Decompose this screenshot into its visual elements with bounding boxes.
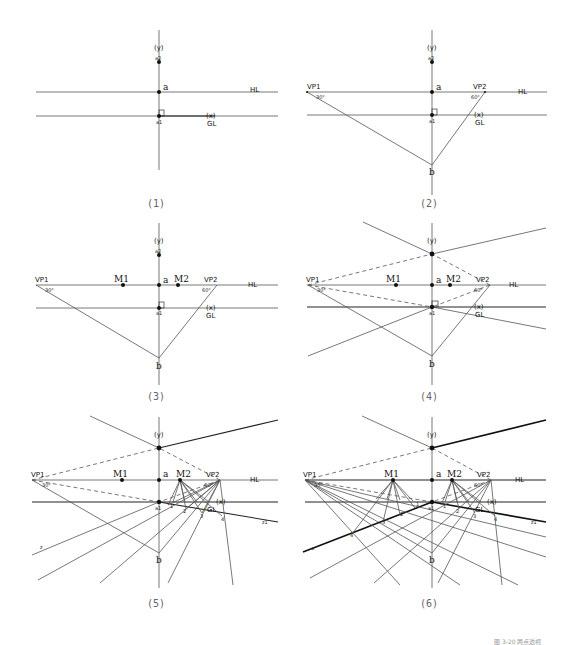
label-angle-30: 30° [314, 482, 323, 488]
label-hl: HL [250, 86, 259, 94]
tick-1: 1 [170, 503, 173, 509]
label-b: b [156, 361, 162, 371]
point-a1 [157, 114, 161, 118]
tick-1: 1 [443, 503, 446, 509]
label-angle-30: 30° [42, 482, 51, 488]
point-a [430, 90, 434, 94]
point-a [430, 478, 434, 482]
label-m2: M2 [176, 469, 191, 479]
label-a: a [163, 469, 169, 479]
vp1-to-b-line [307, 92, 432, 165]
label-vp1: VP1 [303, 471, 316, 479]
label-z1: z1 [531, 519, 537, 525]
vp1-to-b-line [36, 285, 159, 358]
point-a [157, 478, 161, 482]
label-y: (y) [427, 431, 437, 439]
y-axis-right-line [432, 228, 546, 254]
vp1-to-b-line [308, 285, 432, 356]
label-a: a [436, 82, 442, 92]
label-hl: HL [248, 281, 257, 289]
label-z1: z1 [262, 519, 268, 525]
tick-2: 2 [456, 508, 459, 514]
y-axis-left-line [363, 222, 432, 254]
y-axis-left-line [362, 416, 432, 448]
panel-5: (y) a a1 M1 M2 VP1 VP2 30° 60° (x) GL HL… [31, 416, 278, 609]
label-x: (x) [487, 498, 497, 506]
label-m2: M2 [174, 274, 189, 284]
panel-caption: (3) [147, 391, 165, 402]
label-y: (y) [427, 44, 437, 52]
label-b: b [429, 359, 435, 369]
vp1-to-a2-dashed [308, 254, 432, 285]
vp2-fan-lines [38, 480, 233, 585]
z-axis-right-line [432, 307, 546, 329]
label-x: (x) [216, 498, 226, 506]
label-a2: a2 [155, 55, 161, 61]
label-vp2: VP2 [476, 276, 489, 284]
label-angle-60: 60° [204, 482, 213, 488]
panel-caption: (4) [420, 391, 438, 402]
vp1-to-a2-dashed [305, 448, 432, 480]
label-b: b [429, 555, 435, 565]
label-gl: GL [475, 506, 484, 514]
point-vp1 [306, 91, 308, 93]
label-gl: GL [207, 506, 216, 514]
label-hl: HL [515, 476, 524, 484]
label-angle-30: 30° [317, 287, 326, 293]
panel-1: (y) a2 a a1 (x) GL HL (1) [36, 30, 278, 209]
label-m1: M1 [114, 274, 129, 284]
panel-caption: (5) [147, 598, 165, 609]
label-x: (x) [206, 304, 216, 312]
point-a [157, 90, 161, 94]
label-hl: HL [518, 88, 527, 96]
label-vp2: VP2 [206, 471, 219, 479]
label-angle-60: 60° [202, 287, 211, 293]
label-a: a [436, 275, 442, 285]
panel-caption: (1) [147, 198, 165, 209]
label-x: (x) [206, 112, 216, 120]
label-hl: HL [509, 281, 518, 289]
label-a1: a1 [155, 505, 161, 511]
label-a1: a1 [428, 505, 434, 511]
label-m1: M1 [386, 274, 401, 284]
label-y: (y) [154, 431, 164, 439]
tick-2: 2 [183, 508, 186, 514]
label-a: a [163, 275, 169, 285]
label-m2: M2 [447, 469, 462, 479]
label-gl: GL [475, 311, 484, 319]
vp2-to-b-line [159, 285, 217, 358]
point-a2 [430, 252, 435, 257]
vp2-to-b-line [432, 92, 485, 165]
point-a1 [430, 500, 434, 504]
tick-4: 4 [221, 516, 224, 522]
label-angle-30: 30° [316, 94, 325, 100]
vp1-to-a2-dashed [32, 448, 159, 480]
panel-caption: (6) [420, 598, 438, 609]
perspective-construction-figure: (y) a2 a a1 (x) GL HL (1) (y) a2 a a1 VP… [0, 0, 576, 645]
label-b: b [429, 167, 435, 177]
tick-4: 4 [494, 516, 497, 522]
point-a1 [430, 305, 434, 309]
label-gl: GL [206, 312, 215, 320]
label-b: b [156, 555, 162, 565]
label-vp2: VP2 [204, 276, 217, 284]
label-z: z [312, 545, 315, 551]
figure-footnote: 图 3-20 两点透视 [494, 638, 541, 645]
label-a1: a1 [429, 118, 435, 124]
label-x: (x) [474, 111, 484, 119]
label-y: (y) [154, 44, 164, 52]
label-gl: GL [207, 120, 216, 128]
y-axis-right-line [159, 420, 278, 448]
panel-4: (y) a a1 M1 M2 VP1 VP2 30° 60° (x) GL HL… [306, 222, 546, 402]
label-a: a [436, 469, 442, 479]
label-a1: a1 [429, 310, 435, 316]
point-a1 [430, 113, 434, 117]
label-vp2: VP2 [473, 83, 486, 91]
label-vp1: VP1 [35, 276, 48, 284]
z-axis-line [32, 502, 159, 555]
label-angle-60: 60° [474, 482, 483, 488]
point-a1 [157, 500, 161, 504]
label-vp1: VP1 [31, 471, 44, 479]
point-a [430, 283, 434, 287]
tick-left-2: 2 [400, 511, 403, 517]
